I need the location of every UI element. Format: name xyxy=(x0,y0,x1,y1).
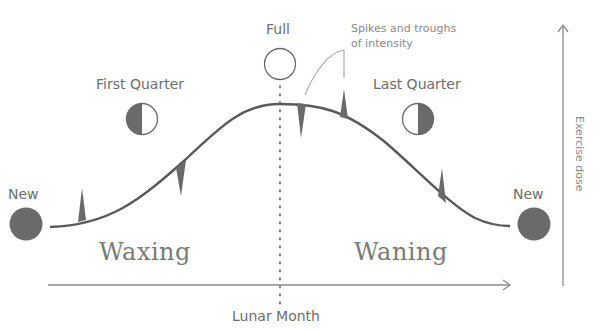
diagram-graphics xyxy=(0,0,600,332)
lunar-exercise-diagram: New First Quarter Full Last Quarter New … xyxy=(0,0,600,332)
first-quarter-label: First Quarter xyxy=(96,76,184,92)
full-moon-icon xyxy=(265,49,296,80)
y-axis xyxy=(558,25,568,286)
last-quarter-moon-icon xyxy=(403,104,434,135)
spike-up-icon xyxy=(438,168,446,203)
new-moon-right-label: New xyxy=(513,186,544,202)
spike-up-icon xyxy=(78,188,86,222)
annotation-line-1: Spikes and troughs xyxy=(351,21,456,36)
last-quarter-label: Last Quarter xyxy=(373,76,461,92)
full-moon-label: Full xyxy=(266,21,290,37)
waning-label: Waning xyxy=(354,238,448,266)
new-moon-left-label: New xyxy=(8,186,39,202)
x-axis xyxy=(48,280,510,290)
y-axis-label: Exercise dose xyxy=(573,116,586,191)
first-quarter-moon-icon xyxy=(127,104,158,135)
annotation-line-2: of intensity xyxy=(351,36,413,51)
annotation-arc xyxy=(305,50,344,95)
new-moon-left-icon xyxy=(10,208,43,241)
trough-down-icon xyxy=(297,103,306,138)
spike-up-icon xyxy=(340,89,348,119)
x-axis-label: Lunar Month xyxy=(232,308,320,324)
new-moon-right-icon xyxy=(518,208,551,241)
waxing-label: Waxing xyxy=(99,238,191,266)
